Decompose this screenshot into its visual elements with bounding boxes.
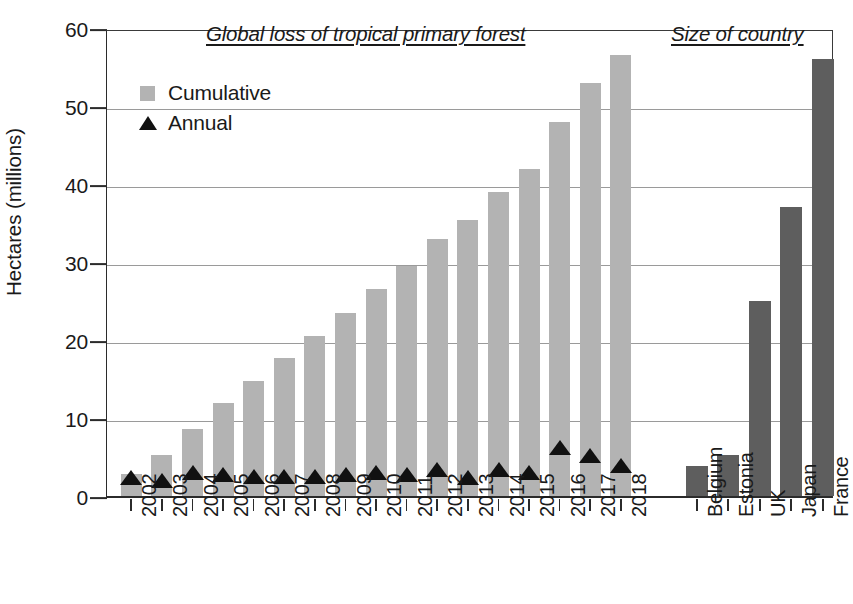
- x-tick-mark: [283, 499, 285, 511]
- x-tick-mark: [696, 499, 698, 511]
- y-tick-label: 60: [28, 18, 88, 42]
- x-tick-label-country: Japan: [798, 464, 821, 517]
- x-tick-label-year: 2016: [567, 474, 590, 517]
- y-axis-label: Hectares (millions): [2, 2, 26, 422]
- x-tick-label-year: 2004: [200, 474, 223, 517]
- x-tick-mark: [559, 499, 561, 511]
- x-tick-label-year: 2013: [475, 474, 498, 517]
- x-tick-label-year: 2002: [138, 474, 161, 517]
- bar-country-size: [780, 207, 802, 496]
- x-tick-label-country: Belgium: [704, 447, 727, 517]
- y-tick-mark: [90, 185, 107, 187]
- x-tick-label-year: 2005: [230, 474, 253, 517]
- x-tick-mark: [130, 499, 132, 511]
- x-tick-mark: [759, 499, 761, 511]
- x-tick-label-year: 2017: [597, 474, 620, 517]
- legend-item-cumulative: Cumulative: [140, 78, 271, 108]
- legend-label-annual: Annual: [168, 111, 232, 135]
- bar-cumulative: [488, 192, 509, 496]
- bar-cumulative: [457, 220, 478, 496]
- x-tick-mark: [345, 499, 347, 511]
- x-tick-label-year: 2012: [444, 474, 467, 517]
- x-tick-label-year: 2014: [506, 474, 529, 517]
- y-tick-label: 0: [28, 486, 88, 510]
- x-tick-mark: [498, 499, 500, 511]
- x-tick-mark: [822, 499, 824, 511]
- x-tick-mark: [222, 499, 224, 511]
- x-tick-mark: [790, 499, 792, 511]
- y-tick-mark: [90, 29, 107, 31]
- x-tick-label-country: UK: [767, 490, 790, 517]
- y-tick-label: 50: [28, 96, 88, 120]
- bar-cumulative: [580, 83, 601, 496]
- x-tick-label-year: 2003: [169, 474, 192, 517]
- x-tick-label-year: 2008: [322, 474, 345, 517]
- marker-annual: [610, 458, 632, 473]
- x-tick-mark: [314, 499, 316, 511]
- x-tick-mark: [253, 499, 255, 511]
- x-tick-label-year: 2006: [261, 474, 284, 517]
- x-tick-mark: [375, 499, 377, 511]
- panel-title-forest-loss: Global loss of tropical primary forest: [206, 22, 525, 46]
- y-tick-mark: [90, 497, 107, 499]
- triangle-swatch-icon: [139, 116, 157, 130]
- y-tick-mark: [90, 107, 107, 109]
- x-tick-mark: [727, 499, 729, 511]
- x-tick-mark: [528, 499, 530, 511]
- y-tick-label: 30: [28, 252, 88, 276]
- x-tick-mark: [161, 499, 163, 511]
- bar-cumulative: [396, 266, 417, 496]
- x-tick-mark: [406, 499, 408, 511]
- chart-legend: Cumulative Annual: [140, 78, 271, 138]
- bar-cumulative: [519, 169, 540, 496]
- gridline: [107, 187, 832, 188]
- x-tick-mark: [436, 499, 438, 511]
- bar-country-size: [812, 59, 834, 496]
- square-swatch-icon: [140, 86, 155, 101]
- legend-label-cumulative: Cumulative: [168, 81, 271, 105]
- x-tick-label-year: 2015: [536, 474, 559, 517]
- x-tick-label-year: 2011: [414, 475, 437, 517]
- x-tick-label-country: France: [830, 457, 853, 517]
- panel-title-country-size: Size of country: [671, 22, 804, 46]
- bar-cumulative: [427, 239, 448, 496]
- x-tick-label-year: 2009: [353, 474, 376, 517]
- x-tick-mark: [620, 499, 622, 511]
- legend-item-annual: Annual: [140, 108, 271, 138]
- bar-cumulative: [610, 55, 631, 496]
- marker-annual: [549, 440, 571, 455]
- y-tick-mark: [90, 419, 107, 421]
- x-tick-label-year: 2018: [628, 474, 651, 517]
- x-tick-label-country: Estonia: [735, 452, 758, 517]
- y-tick-label: 10: [28, 408, 88, 432]
- x-tick-label-year: 2007: [291, 474, 314, 517]
- marker-annual: [579, 448, 601, 463]
- x-tick-mark: [192, 499, 194, 511]
- x-tick-label-year: 2010: [383, 474, 406, 517]
- x-tick-mark: [467, 499, 469, 511]
- y-tick-label: 20: [28, 330, 88, 354]
- y-tick-mark: [90, 341, 107, 343]
- x-tick-mark: [589, 499, 591, 511]
- y-tick-mark: [90, 263, 107, 265]
- y-tick-label: 40: [28, 174, 88, 198]
